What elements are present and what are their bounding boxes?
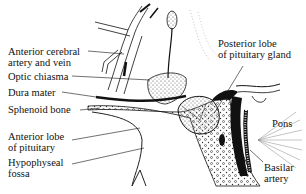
anterior-cerebral-vessels [95,6,148,94]
label-posterior-lobe: Posterior lobe of pituitary gland [218,38,291,60]
label-line: Anterior cerebral [8,46,80,57]
anterior-lobe-shape [178,96,219,134]
label-anterior-cerebral: Anterior cerebral artery and vein [8,46,80,68]
label-line: artery and vein [8,57,80,68]
label-sphenoid-bone: Sphenoid bone [8,104,71,115]
label-line: of pituitary [8,142,64,153]
label-basilar-artery: Basilar artery [264,162,294,184]
label-pons: Pons [272,118,292,129]
label-hypophyseal-fossa: Hypophyseal fossa [8,157,63,179]
label-line: artery [264,173,294,184]
label-optic-chiasma: Optic chiasma [8,71,68,82]
label-line: Hypophyseal [8,157,63,168]
pituitary-anatomy-diagram: Anterior cerebral artery and vein Optic … [0,0,306,194]
label-dura-mater: Dura mater [8,87,56,98]
label-line: of pituitary gland [218,49,291,60]
label-line: Basilar [264,162,294,173]
label-line: Posterior lobe [218,38,291,49]
label-line: Anterior lobe [8,131,64,142]
label-line: fossa [8,168,63,179]
label-anterior-lobe: Anterior lobe of pituitary [8,131,64,153]
